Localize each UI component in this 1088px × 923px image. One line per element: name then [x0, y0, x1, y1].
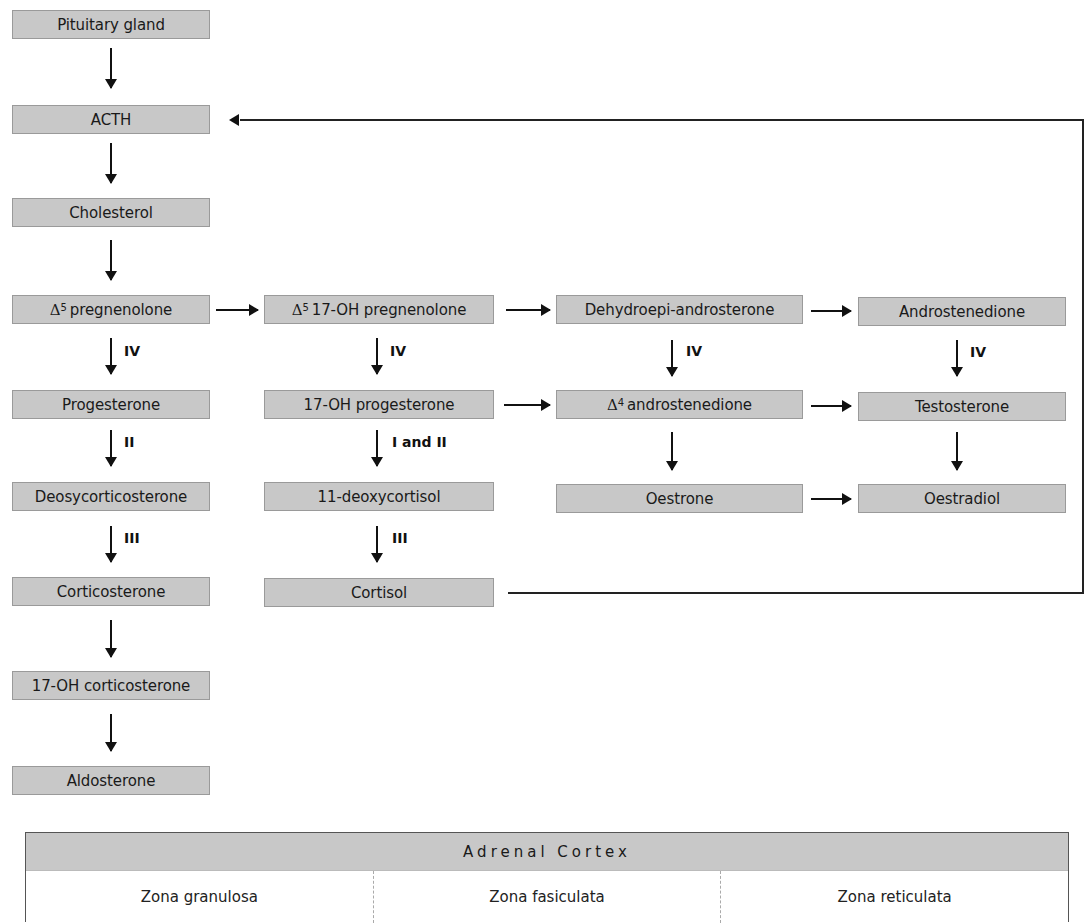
zone-granulosa: Zona granulosa	[26, 871, 374, 923]
feedback-line-right	[1082, 119, 1084, 594]
delta-symbol: Δ	[607, 396, 618, 414]
zones-row: Zona granulosa Zona fasiculata Zona reti…	[26, 871, 1068, 923]
node-17oh-progesterone: 17-OH progesterone	[264, 390, 494, 419]
node-label: Androstenedione	[899, 303, 1025, 321]
node-label: pregnenolone	[70, 301, 172, 319]
node-label: 17-OH corticosterone	[32, 677, 191, 695]
node-label: ACTH	[91, 111, 132, 129]
arrow-d4-androstenedione-to-oestrone	[671, 432, 673, 470]
enzyme-label: III	[124, 530, 140, 546]
node-oestradiol: Oestradiol	[858, 484, 1066, 513]
arrow-17oh-prog-to-d4-androstenedione	[504, 404, 550, 406]
node-testosterone: Testosterone	[858, 392, 1066, 421]
zone-fasiculata: Zona fasiculata	[374, 871, 722, 923]
arrow-pregnenolone-to-progesterone	[110, 338, 112, 374]
feedback-line-bottom	[508, 592, 1084, 594]
node-label: androstenedione	[627, 396, 752, 414]
node-progesterone: Progesterone	[12, 390, 210, 419]
node-17oh-corticosterone: 17-OH corticosterone	[12, 671, 210, 700]
node-dhea: Dehydroepi-androsterone	[556, 295, 803, 324]
node-label: Testosterone	[915, 398, 1009, 416]
delta-symbol: Δ	[292, 301, 303, 319]
superscript: 5	[61, 302, 67, 313]
arrow-17oh-preg-to-17oh-prog	[376, 338, 378, 374]
arrow-testosterone-to-oestradiol	[956, 432, 958, 470]
enzyme-label: III	[392, 530, 408, 546]
node-deosycorticosterone: Deosycorticosterone	[12, 482, 210, 511]
arrow-acth-to-cholesterol	[110, 143, 112, 183]
enzyme-label: I and II	[392, 434, 447, 450]
enzyme-label: II	[124, 434, 134, 450]
node-label: Oestrone	[646, 490, 714, 508]
node-cholesterol: Cholesterol	[12, 198, 210, 227]
node-label: Aldosterone	[67, 772, 156, 790]
enzyme-label: IV	[124, 343, 140, 359]
arrow-17oh-prog-to-deoxycortisol	[376, 430, 378, 466]
arrow-doc-to-corticosterone	[110, 526, 112, 562]
adrenal-cortex-table: Adrenal Cortex Zona granulosa Zona fasic…	[25, 832, 1069, 922]
node-label: Cortisol	[351, 584, 407, 602]
enzyme-label: IV	[970, 344, 986, 360]
node-label: 11-deoxycortisol	[318, 488, 441, 506]
node-label: Deosycorticosterone	[35, 488, 188, 506]
feedback-line-top	[240, 119, 1084, 121]
node-label: Pituitary gland	[57, 16, 165, 34]
node-label: Corticosterone	[57, 583, 166, 601]
arrow-cholesterol-to-pregnenolone	[110, 240, 112, 280]
arrow-dhea-to-androstenedione	[811, 310, 851, 312]
arrow-pregnenolone-to-17oh-pregnenolone	[216, 309, 258, 311]
superscript: 5	[302, 302, 308, 313]
feedback-arrowhead-to-acth	[230, 119, 244, 121]
arrow-androstenedione-to-testosterone	[956, 340, 958, 376]
zone-reticulata: Zona reticulata	[721, 871, 1068, 923]
node-acth: ACTH	[12, 105, 210, 134]
arrow-dhea-to-d4-androstenedione	[671, 340, 673, 376]
node-label: 17-OH pregnenolone	[312, 301, 467, 319]
node-pituitary-gland: Pituitary gland	[12, 10, 210, 39]
arrow-17oh-preg-to-dhea	[506, 309, 550, 311]
node-aldosterone: Aldosterone	[12, 766, 210, 795]
arrow-17oh-to-aldosterone	[110, 714, 112, 751]
node-cortisol: Cortisol	[264, 578, 494, 607]
enzyme-label: IV	[390, 343, 406, 359]
arrow-progesterone-to-doc	[110, 430, 112, 466]
enzyme-label: IV	[686, 343, 702, 359]
node-label: Cholesterol	[69, 204, 153, 222]
arrow-pituitary-to-acth	[110, 48, 112, 88]
node-label: 17-OH progesterone	[304, 396, 455, 414]
node-androstenedione: Androstenedione	[858, 297, 1066, 326]
node-oestrone: Oestrone	[556, 484, 803, 513]
arrow-d4-androstenedione-to-testosterone	[811, 405, 851, 407]
node-label: Dehydroepi-androsterone	[585, 301, 775, 319]
node-pregnenolone: Δ5pregnenolone	[12, 295, 210, 324]
node-d4-androstenedione: Δ4androstenedione	[556, 390, 803, 419]
arrow-corticosterone-to-17oh	[110, 620, 112, 657]
adrenal-cortex-title: Adrenal Cortex	[26, 833, 1068, 871]
node-corticosterone: Corticosterone	[12, 577, 210, 606]
node-label: Oestradiol	[924, 490, 1000, 508]
delta-symbol: Δ	[50, 301, 61, 319]
node-17oh-pregnenolone: Δ517-OH pregnenolone	[264, 295, 494, 324]
arrow-deoxycortisol-to-cortisol	[376, 526, 378, 562]
superscript: 4	[618, 397, 624, 408]
arrow-oestrone-to-oestradiol	[811, 498, 851, 500]
node-label: Progesterone	[62, 396, 160, 414]
node-11-deoxycortisol: 11-deoxycortisol	[264, 482, 494, 511]
